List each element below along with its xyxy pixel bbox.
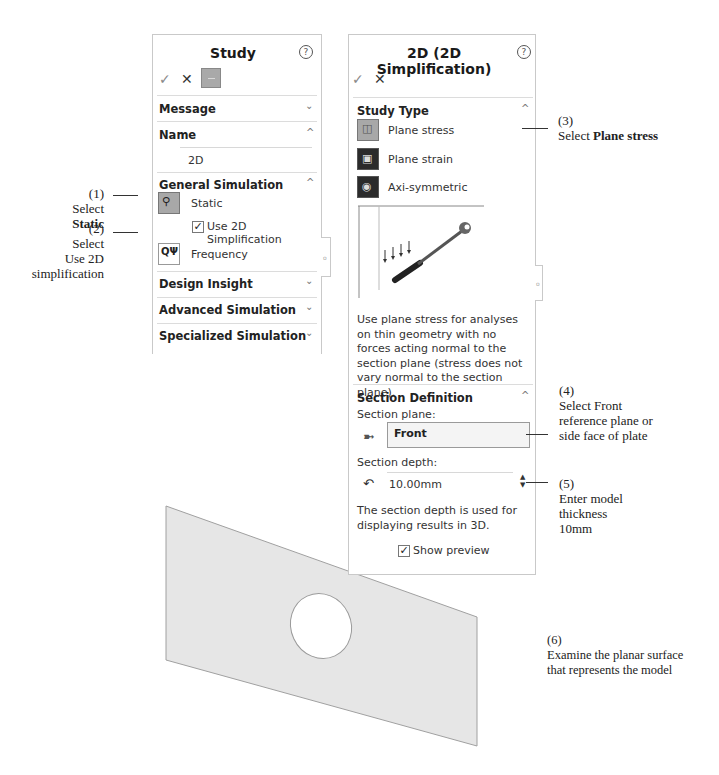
depth-icon: ↶ [363, 476, 374, 491]
step-4-line2: reference plane or [559, 413, 653, 428]
step-2-line3: simplification [20, 266, 104, 281]
chevron-down-icon[interactable]: ⌄ [305, 327, 313, 338]
chevron-down-icon[interactable]: ⌄ [305, 301, 313, 312]
step-4-number: (4) [559, 383, 653, 398]
ok-check-icon[interactable]: ✓ [159, 71, 171, 87]
help-icon[interactable]: ? [517, 45, 531, 59]
chevron-up-icon[interactable]: ^ [306, 177, 314, 188]
ok-check-icon[interactable]: ✓ [352, 71, 364, 87]
panel-collapse-handle[interactable]: o [535, 265, 543, 301]
section-name[interactable]: Name [159, 128, 196, 142]
section-general-simulation[interactable]: General Simulation [159, 178, 283, 192]
chevron-up-icon[interactable]: ^ [306, 127, 314, 138]
step-4-line3: side face of plate [559, 428, 653, 443]
study-name-input[interactable]: 2D [180, 147, 312, 167]
use-2d-simplification-label[interactable]: Use 2D Simplification [207, 220, 321, 246]
plane-strain-label[interactable]: Plane strain [388, 153, 453, 166]
divider [353, 384, 533, 385]
step-2-number: (2) [20, 221, 104, 236]
section-depth-value: 10.00mm [389, 478, 442, 491]
frequency-study-icon[interactable]: QΨ [158, 243, 180, 265]
section-depth-note: The section depth is used for displaying… [357, 504, 517, 533]
section-study-type[interactable]: Study Type [357, 104, 429, 118]
annotation-step-6: (6) Examine the planar surface that repr… [547, 633, 683, 678]
step-6-line2: that represents the model [547, 663, 683, 678]
section-depth-label: Section depth: [357, 456, 437, 469]
step-6-line1: Examine the planar surface [547, 648, 683, 663]
show-preview-checkbox[interactable]: ✓ [398, 545, 410, 557]
divider [157, 297, 317, 298]
divider [353, 97, 533, 98]
study-panel: Study ? ✓ ✕ Message ⌄ Name ^ 2D General … [152, 34, 322, 354]
step-4-line1: Select Front [559, 398, 653, 413]
leader-line [113, 195, 138, 196]
divider [157, 323, 317, 324]
section-message[interactable]: Message [159, 102, 216, 116]
section-depth-input[interactable]: 10.00mm [387, 472, 513, 491]
annotation-step-5: (5) Enter model thickness 10mm [559, 476, 623, 536]
leader-line [113, 232, 138, 233]
section-design-insight[interactable]: Design Insight [159, 277, 253, 291]
section-advanced-simulation[interactable]: Advanced Simulation [159, 303, 296, 317]
static-option-label[interactable]: Static [191, 197, 222, 210]
panel-collapse-handle[interactable]: o [321, 237, 331, 277]
leader-line [526, 434, 548, 435]
step-5-line3: 10mm [559, 521, 623, 536]
section-plane-value: Front [394, 427, 427, 440]
frequency-option-label[interactable]: Frequency [191, 248, 248, 261]
use-2d-simplification-checkbox[interactable]: ✓ [192, 221, 204, 233]
chevron-down-icon[interactable]: ⌄ [305, 100, 313, 111]
section-definition-heading[interactable]: Section Definition [357, 391, 473, 405]
section-plane-label: Section plane: [357, 408, 436, 421]
step-2-line2: Use 2D [20, 251, 104, 266]
static-study-icon[interactable]: ⚲ [158, 192, 180, 214]
study-type-description: Use plane stress for analyses on thin ge… [357, 313, 529, 400]
annotation-step-3: (3) Select Plane stress [558, 113, 658, 143]
step-6-number: (6) [547, 633, 683, 648]
help-icon[interactable]: ? [299, 45, 313, 59]
chevron-up-icon[interactable]: ^ [521, 103, 529, 114]
show-preview-label[interactable]: Show preview [413, 544, 490, 557]
axi-symmetric-icon[interactable]: ◉ [357, 176, 379, 198]
axi-symmetric-label[interactable]: Axi-symmetric [388, 181, 467, 194]
depth-spinner[interactable]: ▲▼ [520, 473, 525, 489]
study-panel-title: Study [153, 45, 313, 61]
divider [157, 95, 317, 96]
annotation-step-4: (4) Select Front reference plane or side… [559, 383, 653, 443]
leader-line [526, 482, 548, 483]
plane-stress-icon[interactable]: ◫ [357, 119, 379, 141]
step-3-number: (3) [558, 113, 658, 128]
step-2-line1: Select [20, 236, 104, 251]
plane-reference-icon: ➼ [363, 428, 375, 444]
step-5-line1: Enter model [559, 491, 623, 506]
step-3-text: Select Plane stress [558, 128, 658, 143]
plane-strain-icon[interactable]: ▣ [357, 148, 379, 170]
section-plane-field[interactable]: Front [387, 422, 530, 448]
divider [157, 172, 317, 173]
chevron-down-icon[interactable]: ⌄ [305, 275, 313, 286]
cancel-x-icon[interactable]: ✕ [181, 71, 193, 87]
pin-icon[interactable] [201, 68, 221, 88]
step-1-number: (1) [40, 186, 104, 201]
divider [157, 121, 317, 122]
study-name-value: 2D [188, 154, 203, 167]
cancel-x-icon[interactable]: ✕ [374, 71, 386, 87]
plane-stress-illustration [358, 205, 488, 298]
step-5-line2: thickness [559, 506, 623, 521]
step-5-number: (5) [559, 476, 623, 491]
annotation-step-2: (2) Select Use 2D simplification [20, 221, 104, 281]
divider [157, 271, 317, 272]
plane-stress-label[interactable]: Plane stress [388, 124, 454, 137]
simplification-panel: 2D (2D Simplification) ? ✓ ✕ Study Type … [348, 34, 536, 575]
chevron-up-icon[interactable]: ^ [521, 390, 529, 401]
leader-line [522, 128, 548, 129]
section-specialized-simulation[interactable]: Specialized Simulation [159, 329, 306, 343]
